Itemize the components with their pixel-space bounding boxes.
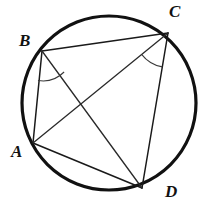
vertex-label-b: B	[19, 32, 30, 49]
segment-cd	[142, 33, 168, 188]
angle-arc-at-c	[142, 54, 163, 67]
vertex-label-a: A	[11, 143, 22, 160]
vertex-label-d: D	[165, 183, 177, 200]
vertex-label-c: C	[169, 3, 180, 20]
geometry-figure: A B C D	[0, 0, 213, 207]
segment-ab	[33, 51, 42, 143]
geometry-canvas	[0, 0, 213, 207]
